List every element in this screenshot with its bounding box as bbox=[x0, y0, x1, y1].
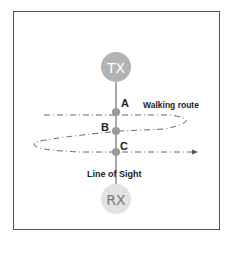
diagram-canvas: TX RX A B C Walking route Line of Sight bbox=[0, 0, 231, 258]
point-c-label: C bbox=[120, 140, 128, 152]
point-c-marker bbox=[112, 148, 120, 156]
walking-route-label: Walking route bbox=[143, 100, 199, 110]
point-a-label: A bbox=[121, 97, 129, 109]
route-arrow-icon bbox=[192, 150, 198, 155]
tx-label: TX bbox=[106, 60, 126, 76]
line-of-sight-label: Line of Sight bbox=[87, 169, 142, 179]
point-b-label: B bbox=[101, 121, 109, 133]
tx-node: TX bbox=[101, 52, 131, 82]
point-a-marker bbox=[112, 108, 120, 116]
rx-label: RX bbox=[106, 192, 126, 208]
point-b-marker bbox=[112, 127, 120, 135]
rx-node: RX bbox=[101, 184, 131, 214]
